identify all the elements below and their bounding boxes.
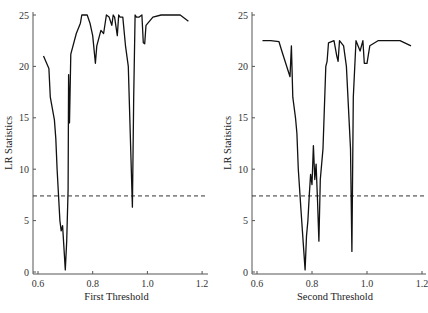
- y-tick-label: 25: [19, 10, 29, 21]
- x-tick-label: 0.8: [306, 278, 319, 289]
- y-tick-label: 15: [19, 112, 29, 123]
- y-tick-label: 25: [238, 10, 248, 21]
- y-tick-label: 10: [238, 164, 248, 175]
- y-tick-label: 20: [19, 61, 29, 72]
- y-tick-label: 5: [243, 215, 248, 226]
- y-tick-label: 0: [24, 267, 29, 278]
- lr-statistic-curve: [44, 15, 189, 270]
- lr-statistic-curve: [263, 41, 412, 270]
- y-tick-label: 20: [238, 61, 248, 72]
- y-axis-title: LR Statistics: [3, 116, 14, 170]
- x-axis-title: Second Threshold: [297, 291, 374, 302]
- y-tick-label: 0: [243, 267, 248, 278]
- y-tick-label: 5: [24, 215, 29, 226]
- x-tick-label: 0.6: [32, 278, 45, 289]
- y-axis-title: LR Statistics: [222, 116, 233, 170]
- x-tick-label: 1.0: [141, 278, 154, 289]
- lr-statistics-figure: 05101520250.60.81.01.2First ThresholdLR …: [0, 0, 428, 313]
- x-tick-label: 0.6: [251, 278, 264, 289]
- x-tick-label: 1.0: [361, 278, 374, 289]
- x-axis-title: First Threshold: [84, 291, 149, 302]
- x-tick-label: 0.8: [86, 278, 99, 289]
- x-tick-label: 1.2: [196, 278, 209, 289]
- x-tick-label: 1.2: [416, 278, 428, 289]
- first-threshold-panel: 05101520250.60.81.01.2First ThresholdLR …: [3, 10, 208, 303]
- y-tick-label: 15: [238, 112, 248, 123]
- y-tick-label: 10: [19, 164, 29, 175]
- second-threshold-panel: 05101520250.60.81.01.2Second ThresholdLR…: [222, 10, 428, 303]
